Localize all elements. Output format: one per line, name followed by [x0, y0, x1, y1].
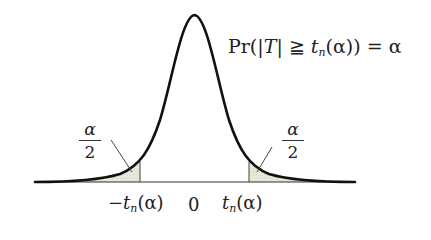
- neg-minus: −: [108, 192, 123, 213]
- pos-arg: (α): [236, 192, 262, 213]
- left-tail-fraction: α 2: [79, 120, 101, 161]
- probability-formula: Pr(|T| ≧ tn(α)) = α: [228, 35, 402, 59]
- zero-text: 0: [188, 194, 199, 215]
- left-frac-num: α: [79, 120, 101, 138]
- formula-t: t: [311, 35, 319, 57]
- formula-var: T: [264, 35, 277, 57]
- right-frac-den: 2: [282, 143, 304, 161]
- pos-crit-label: tn(α): [222, 192, 263, 215]
- right-leader-line: [257, 147, 272, 172]
- formula-prefix: Pr(|: [228, 35, 264, 57]
- zero-label: 0: [188, 194, 199, 215]
- formula-sub: n: [319, 46, 326, 59]
- right-frac-bar: [282, 140, 304, 141]
- neg-arg: (α): [137, 192, 163, 213]
- right-frac-num: α: [282, 120, 304, 138]
- formula-mid: | ≧: [276, 35, 310, 57]
- formula-arg: (α)) = α: [326, 35, 402, 57]
- right-tail-fraction: α 2: [282, 120, 304, 161]
- left-frac-den: 2: [79, 143, 101, 161]
- left-leader-line: [111, 140, 132, 172]
- left-frac-bar: [79, 140, 101, 141]
- neg-crit-label: −tn(α): [108, 192, 164, 215]
